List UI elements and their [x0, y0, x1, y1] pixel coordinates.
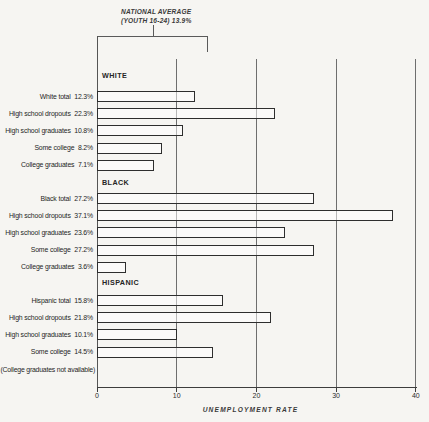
- national-average-bracket-end: [207, 36, 208, 52]
- gridline-40: [415, 59, 416, 387]
- x-axis-title: UNEMPLOYMENT RATE: [90, 406, 411, 413]
- national-average-label: NATIONAL AVERAGE (YOUTH 16-24) 13.9%: [121, 7, 192, 25]
- x-axis-tick-label-40: 40: [404, 392, 428, 399]
- bar-black-3: [97, 245, 314, 256]
- row-label-white-3: Some college 8.2%: [0, 142, 93, 153]
- national-average-bracket-line: [97, 36, 208, 37]
- national-average-line2: (YOUTH 16-24) 13.9%: [121, 16, 192, 25]
- x-axis-tick-label-20: 20: [244, 392, 268, 399]
- row-label-white-1: High school dropouts 22.3%: [0, 108, 93, 119]
- bar-white-0: [97, 91, 195, 102]
- row-label-black-2: High school graduates 23.6%: [0, 227, 93, 238]
- section-label-black: BLACK: [102, 178, 129, 187]
- row-label-hispanic-2: High school graduates 10.1%: [0, 329, 93, 340]
- bar-black-4: [97, 262, 126, 273]
- bar-hispanic-0: [97, 295, 223, 306]
- row-label-white-2: High school graduates 10.8%: [0, 125, 93, 136]
- row-label-black-3: Some college 27.2%: [0, 244, 93, 255]
- row-label-black-1: High school dropouts 37.1%: [0, 210, 93, 221]
- row-label-black-4: College graduates 3.6%: [0, 261, 93, 272]
- x-axis-tick-label-30: 30: [324, 392, 348, 399]
- bar-hispanic-1: [97, 312, 271, 323]
- bar-hispanic-2: [97, 329, 177, 340]
- row-label-hispanic-1: High school dropouts 21.8%: [0, 312, 93, 323]
- bar-black-0: [97, 193, 314, 204]
- gridline-30: [336, 59, 337, 387]
- footnote: (College graduates not available): [0, 364, 95, 375]
- bar-black-2: [97, 227, 285, 238]
- bar-white-3: [97, 143, 162, 154]
- national-average-pointer-line: [153, 25, 154, 36]
- row-label-white-4: College graduates 7.1%: [0, 159, 93, 170]
- section-label-white: WHITE: [102, 71, 127, 80]
- x-axis-line: [97, 387, 417, 388]
- row-label-hispanic-0: Hispanic total 15.8%: [0, 295, 93, 306]
- section-label-hispanic: HISPANIC: [102, 278, 139, 287]
- bar-white-4: [97, 160, 154, 171]
- row-label-black-0: Black total 27.2%: [0, 193, 93, 204]
- bar-white-1: [97, 108, 275, 119]
- x-axis-tick-label-10: 10: [165, 392, 189, 399]
- unemployment-rate-chart: NATIONAL AVERAGE (YOUTH 16-24) 13.9% UNE…: [0, 0, 429, 422]
- bar-hispanic-3: [97, 347, 213, 358]
- bar-black-1: [97, 210, 393, 221]
- national-average-line1: NATIONAL AVERAGE: [121, 7, 192, 16]
- x-axis-tick-label-0: 0: [85, 392, 109, 399]
- row-label-white-0: White total 12.3%: [0, 91, 93, 102]
- row-label-hispanic-3: Some college 14.5%: [0, 346, 93, 357]
- bar-white-2: [97, 125, 183, 136]
